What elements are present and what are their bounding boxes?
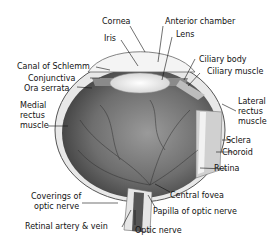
label-lateral-rectus-1: Lateral — [238, 97, 266, 106]
label-optic-nerve: Optic nerve — [135, 226, 182, 235]
label-choroid: Choroid — [222, 148, 253, 157]
label-central-fovea: Central fovea — [170, 191, 224, 200]
label-lateral-rectus-3: muscle — [238, 117, 267, 126]
label-papilla-of-optic-nerve: Papilla of optic nerve — [153, 207, 237, 216]
label-ciliary-muscle: Ciliary muscle — [207, 67, 263, 76]
label-lens: Lens — [176, 30, 194, 39]
label-ciliary-body: Ciliary body — [199, 55, 247, 64]
label-cornea: Cornea — [102, 17, 131, 26]
label-retinal-artery-vein: Retinal artery & vein — [25, 222, 108, 231]
label-coverings-2: optic nerve — [34, 202, 79, 211]
label-lateral-rectus-2: rectus — [238, 107, 263, 116]
label-medial-rectus-2: rectus — [20, 111, 45, 120]
label-medial-rectus-3: muscle — [20, 121, 49, 130]
label-coverings-1: Coverings of — [31, 192, 81, 201]
label-iris: Iris — [104, 34, 116, 43]
label-ora-serrata: Ora serrata — [24, 84, 70, 93]
label-medial-rectus-1: Medial — [20, 101, 46, 110]
label-anterior-chamber: Anterior chamber — [165, 17, 235, 26]
label-sclera: Sclera — [226, 136, 251, 145]
label-conjunctiva: Conjunctiva — [28, 74, 75, 83]
label-retina: Retina — [214, 164, 239, 173]
label-canal-of-schlemm: Canal of Schlemm — [17, 62, 90, 71]
